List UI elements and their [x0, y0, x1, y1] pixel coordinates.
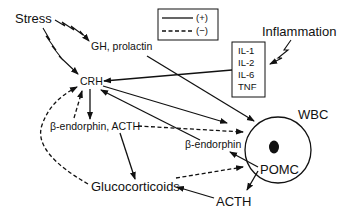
beta-endorphin-acth-to-crh-dashed: [74, 91, 82, 118]
legend-positive-label: (+): [196, 12, 208, 23]
legend-negative-label: (−): [196, 25, 208, 36]
cytokine-box: IL-1 IL-2 IL-6 TNF: [232, 42, 265, 97]
neuroimmune-diagram: (+) (−) Stress GH, prolactin CRH Inflamm…: [0, 0, 346, 213]
glucocorticoids-label: Glucocorticoids: [91, 179, 180, 194]
acth-label: ACTH: [216, 194, 251, 209]
crh-to-wbc-arrow: [103, 86, 227, 123]
beta-endorphin-acth-to-wbc-dashed: [138, 126, 243, 132]
stress-to-gh-lightning: [55, 20, 89, 41]
acth-to-glucocorticoids-arrow: [120, 133, 135, 179]
cytokine-il2: IL-2: [238, 57, 254, 68]
pomc-to-acth-arrow: [247, 171, 258, 190]
wbc-nucleus: [269, 141, 279, 154]
beta-endorphin-label: β-endorphin: [185, 138, 241, 150]
legend: (+) (−): [158, 9, 218, 40]
pomc-to-beta-endorphin-arrow: [230, 152, 258, 167]
stress-label: Stress: [15, 11, 52, 26]
glucocorticoids-to-crh-dashed: [41, 87, 88, 184]
crh-label: CRH: [80, 75, 103, 87]
pomc-label: POMC: [260, 162, 299, 177]
stress-to-crh-lightning: [43, 28, 78, 74]
cytokine-tnf: TNF: [238, 81, 257, 92]
gh-prolactin-label: GH, prolactin: [91, 40, 152, 52]
cytokines-to-crh-arrow: [104, 70, 232, 81]
wbc-label: WBC: [298, 107, 328, 122]
inflammation-to-cytokines-lightning: [270, 40, 291, 64]
beta-endorphin-acth-label: β-endorphin, ACTH: [50, 120, 140, 132]
inflammation-label: Inflammation: [262, 24, 336, 39]
wbc-beta-endorphin-to-crh-arrow: [101, 90, 200, 140]
glucocorticoids-to-wbc-dashed: [176, 167, 243, 178]
cytokine-il1: IL-1: [238, 45, 254, 56]
acth-to-glucocorticoids-from-wbc-arrow: [177, 187, 214, 198]
cytokine-il6: IL-6: [238, 69, 254, 80]
legend-box: [158, 9, 218, 40]
